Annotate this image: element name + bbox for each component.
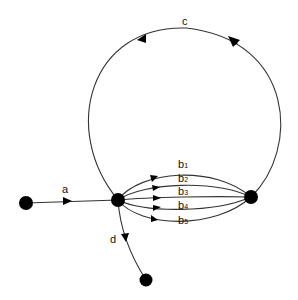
edge-c xyxy=(88,28,280,200)
edge-d xyxy=(118,200,146,280)
edge-b3 xyxy=(118,197,251,200)
label-c: c xyxy=(182,15,188,27)
edge-a xyxy=(26,200,118,203)
arrow-b4 xyxy=(153,205,161,211)
label-b3: b3 xyxy=(178,185,188,197)
graph-diagram: a c d b1 b2 b3 b4 b5 xyxy=(0,0,298,300)
arrow-d xyxy=(121,233,129,242)
node-hub xyxy=(111,193,125,207)
label-b5: b5 xyxy=(178,214,188,226)
arrow-b3 xyxy=(153,195,161,201)
label-b4: b4 xyxy=(178,199,188,211)
arrow-b5 xyxy=(151,215,158,222)
node-right xyxy=(244,190,258,204)
label-b1: b1 xyxy=(178,158,188,170)
arrow-b2 xyxy=(152,185,160,191)
label-a: a xyxy=(62,183,69,195)
node-source xyxy=(19,196,33,210)
arrow-a xyxy=(63,197,72,205)
label-b2: b2 xyxy=(178,172,188,184)
label-d: d xyxy=(110,233,116,245)
node-sink xyxy=(140,274,153,287)
